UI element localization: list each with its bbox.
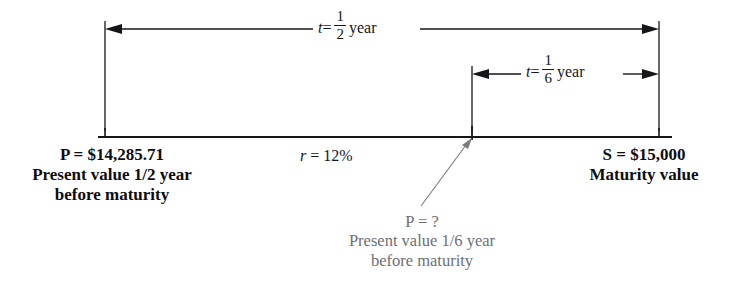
unknown-amount: P = ? [318, 212, 526, 231]
half-span-equals: = [322, 19, 331, 36]
unknown-desc-1: Present value 1/6 year [318, 231, 526, 250]
unknown-desc-2: before maturity [318, 251, 526, 270]
half-span-arrowhead-left [105, 24, 122, 34]
present-value-desc-2: before maturity [12, 185, 212, 205]
sixth-span-numerator: 1 [542, 53, 554, 70]
half-span-numerator: 1 [334, 9, 346, 26]
present-value-timeline-diagram: t=12year t=16year P = $14,285.71 Present… [0, 0, 732, 293]
unknown-present-value-annotation: P = ? Present value 1/6 year before matu… [318, 212, 526, 270]
present-value-desc-1: Present value 1/2 year [12, 165, 212, 185]
sixth-span-equals: = [530, 63, 539, 80]
sixth-span-denominator: 6 [542, 70, 554, 86]
unknown-leader-line [421, 141, 469, 206]
unknown-leader-arrowhead [462, 138, 472, 149]
half-span-denominator: 2 [334, 26, 346, 42]
maturity-desc-1: Maturity value [556, 165, 732, 185]
half-span-arrowhead-right [642, 24, 659, 34]
present-value-amount: P = $14,285.71 [12, 145, 212, 165]
half-year-span-label: t=12year [313, 9, 382, 42]
interest-rate-annotation: r = 12% [300, 147, 353, 166]
sixth-span-fraction: 16 [542, 53, 554, 86]
rate-equals: = [310, 147, 319, 164]
sixth-span-arrowhead-left [472, 69, 489, 79]
half-span-unit: year [349, 19, 377, 36]
maturity-value-annotation: S = $15,000 Maturity value [556, 145, 732, 185]
rate-symbol: r [300, 147, 306, 164]
maturity-amount: S = $15,000 [556, 145, 732, 165]
sixth-span-unit: year [557, 63, 585, 80]
rate-value: 12% [323, 147, 352, 164]
present-value-annotation: P = $14,285.71 Present value 1/2 year be… [12, 145, 212, 205]
sixth-year-span-label: t=16year [521, 53, 590, 86]
half-span-fraction: 12 [334, 9, 346, 42]
sixth-span-arrowhead-right [642, 69, 659, 79]
